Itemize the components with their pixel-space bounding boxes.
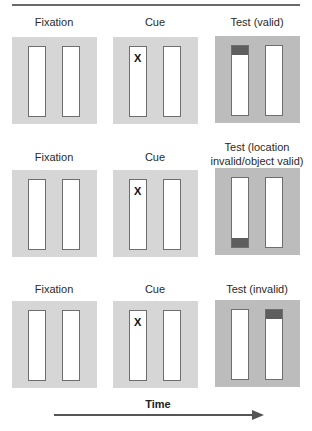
cue-x-mark: X [134,52,141,64]
left-rectangle [28,310,46,381]
left-rectangle: X [129,46,147,117]
right-rectangle [265,309,283,380]
row3-cue-label: Cue [105,282,205,296]
row2-fixation-panel [12,170,97,257]
time-arrow-shaft [54,414,254,416]
right-rectangle [163,46,181,117]
left-rectangle [28,46,46,117]
row2-fixation-label: Fixation [4,150,104,164]
target-block [232,238,248,247]
row1-fixation-label: Fixation [4,15,104,29]
row2-test-label-line1: Test (location [202,140,312,154]
target-block [266,310,282,319]
right-rectangle [265,45,283,116]
cue-x-mark: X [134,185,141,197]
left-rectangle: X [129,310,147,381]
left-rectangle [231,45,249,116]
row3-test-panel [215,300,300,387]
cue-x-mark: X [134,316,141,328]
row1-test-panel [215,36,300,123]
row3-fixation-label: Fixation [4,282,104,296]
row3-test-label: Test (invalid) [207,282,307,296]
right-rectangle [265,177,283,248]
arrow-right-icon [252,410,264,420]
time-label: Time [130,398,186,410]
right-rectangle [62,46,80,117]
left-rectangle [231,309,249,380]
left-rectangle [231,177,249,248]
row2-cue-panel: X [113,170,198,257]
left-rectangle [28,179,46,250]
right-rectangle [163,179,181,250]
row1-test-label: Test (valid) [207,15,307,29]
row1-cue-panel: X [113,37,198,124]
row2-test-label-line2: invalid/object valid) [202,154,312,168]
row3-cue-panel: X [113,301,198,388]
row3-fixation-panel [12,301,97,388]
left-rectangle: X [129,179,147,250]
row1-fixation-panel [12,37,97,124]
row2-cue-label: Cue [105,150,205,164]
row2-test-panel [215,168,300,255]
right-rectangle [62,310,80,381]
target-block [232,46,248,55]
top-rule [12,4,300,6]
right-rectangle [163,310,181,381]
row1-cue-label: Cue [105,15,205,29]
right-rectangle [62,179,80,250]
